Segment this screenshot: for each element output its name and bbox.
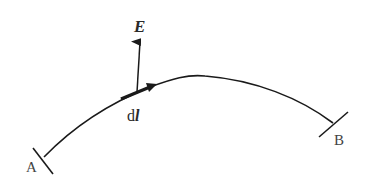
- dl-prefix: d: [127, 107, 135, 124]
- path-curve: [44, 76, 333, 157]
- e-vector: [137, 42, 140, 92]
- point-b-label: B: [334, 133, 344, 148]
- dl-vector: [121, 87, 150, 99]
- e-vector-label: E: [134, 18, 145, 35]
- dl-symbol: l: [135, 107, 139, 124]
- diagram-canvas: [0, 0, 368, 190]
- point-a-label: A: [26, 160, 37, 175]
- dl-label: dl: [127, 108, 139, 124]
- dl-arrowhead-icon: [146, 83, 157, 92]
